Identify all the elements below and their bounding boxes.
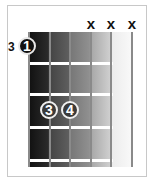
string-5 (110, 32, 112, 167)
start-fret-label: 3 (8, 40, 15, 54)
string-4 (90, 32, 92, 167)
string-3 (69, 32, 71, 167)
mute-x-icon: x (104, 16, 118, 32)
fret-line-2 (29, 93, 113, 96)
string-2 (49, 32, 51, 167)
mute-x-icon: x (125, 16, 139, 32)
fret-line-1 (29, 62, 113, 65)
fretboard (29, 32, 133, 167)
finger-dot: 4 (61, 101, 79, 119)
string-6 (131, 32, 133, 167)
fret-line-4 (29, 159, 113, 162)
finger-dot: 1 (18, 37, 36, 55)
fret-line-3 (29, 126, 113, 129)
finger-dot: 3 (40, 101, 58, 119)
mute-x-icon: x (84, 16, 98, 32)
